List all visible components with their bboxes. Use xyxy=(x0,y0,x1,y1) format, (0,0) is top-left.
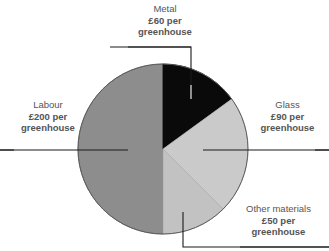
pie-label-glass-unit: greenhouse xyxy=(246,122,329,134)
pie-label-glass-name: Glass xyxy=(246,99,329,111)
pie-label-metal-value: £60 per xyxy=(106,15,224,27)
pie-label-labour-value: £200 per xyxy=(0,111,96,123)
pie-label-metal: Metal £60 per greenhouse xyxy=(106,3,224,38)
pie-label-labour-name: Labour xyxy=(0,99,96,111)
pie-label-glass: Glass £90 per greenhouse xyxy=(246,99,329,134)
pie-label-labour: Labour £200 per greenhouse xyxy=(0,99,96,134)
pie-label-labour-unit: greenhouse xyxy=(0,122,96,134)
pie-label-other-materials-name: Other materials xyxy=(228,203,329,215)
pie-label-other-materials-unit: greenhouse xyxy=(228,226,329,238)
pie-label-metal-unit: greenhouse xyxy=(106,26,224,38)
pie-label-other-materials: Other materials £50 per greenhouse xyxy=(228,203,329,238)
pie-chart-figure: Metal £60 per greenhouse Labour £200 per… xyxy=(0,0,329,251)
pie-label-glass-value: £90 per xyxy=(246,111,329,123)
pie-slice-labour[interactable] xyxy=(78,64,163,234)
pie-label-metal-name: Metal xyxy=(106,3,224,15)
pie-label-other-materials-value: £50 per xyxy=(228,215,329,227)
